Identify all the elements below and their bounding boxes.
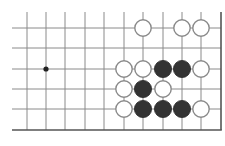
black-stone bbox=[173, 100, 190, 117]
white-stone bbox=[116, 101, 132, 117]
white-stone bbox=[193, 20, 209, 36]
go-board bbox=[0, 0, 225, 146]
black-stone bbox=[173, 60, 190, 77]
white-stone bbox=[116, 61, 132, 77]
white-stone bbox=[135, 20, 151, 36]
white-stone bbox=[135, 61, 151, 77]
white-stone bbox=[193, 101, 209, 117]
white-stone bbox=[116, 81, 132, 97]
black-stone bbox=[154, 100, 171, 117]
star-points bbox=[43, 66, 48, 71]
white-stone bbox=[193, 61, 209, 77]
black-stone bbox=[134, 80, 151, 97]
star-point-icon bbox=[43, 66, 48, 71]
black-stone bbox=[134, 100, 151, 117]
black-stone bbox=[154, 60, 171, 77]
white-stone bbox=[155, 81, 171, 97]
white-stone bbox=[174, 20, 190, 36]
